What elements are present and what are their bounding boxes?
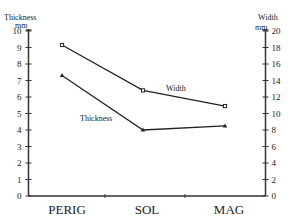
right-tick-label: 2 (272, 175, 277, 185)
left-tick-label: 0 (17, 191, 22, 201)
left-tick-label: 1 (17, 175, 22, 185)
right-axis-unit: mm (255, 23, 268, 32)
labels: 01234567891002468101214161820Thicknessmm… (4, 13, 281, 217)
right-tick-label: 4 (272, 158, 277, 168)
right-tick-label: 18 (272, 43, 282, 53)
right-tick-label: 8 (272, 125, 277, 135)
x-category-label: MAG (214, 202, 244, 217)
right-tick-label: 6 (272, 142, 277, 152)
right-tick-label: 20 (272, 26, 282, 36)
square-marker (141, 89, 144, 92)
left-tick-label: 5 (17, 109, 22, 119)
square-marker (60, 43, 63, 46)
left-tick-label: 2 (17, 158, 22, 168)
axes (26, 29, 269, 198)
left-tick-label: 7 (17, 76, 22, 86)
thickness-series-label: Thickness (80, 114, 112, 123)
x-category-label: PERIG (48, 202, 86, 217)
left-axis-unit: mm (15, 21, 28, 30)
left-tick-label: 8 (17, 59, 22, 69)
left-tick-label: 3 (17, 142, 22, 152)
square-marker (223, 104, 226, 107)
left-tick-label: 9 (17, 43, 22, 53)
right-tick-label: 16 (272, 59, 282, 69)
right-axis-title: Width (258, 13, 278, 22)
right-tick-label: 0 (272, 191, 277, 201)
right-tick-label: 12 (272, 92, 281, 102)
x-category-label: SOL (135, 202, 160, 217)
left-tick-label: 4 (17, 125, 22, 135)
triangle-marker (60, 73, 64, 77)
series-line-width (62, 45, 225, 106)
right-tick-label: 14 (272, 76, 282, 86)
right-tick-label: 10 (272, 109, 282, 119)
left-tick-label: 6 (17, 92, 22, 102)
width-series-label: Width (166, 84, 186, 93)
chart-canvas: 01234567891002468101214161820Thicknessmm… (0, 0, 289, 223)
